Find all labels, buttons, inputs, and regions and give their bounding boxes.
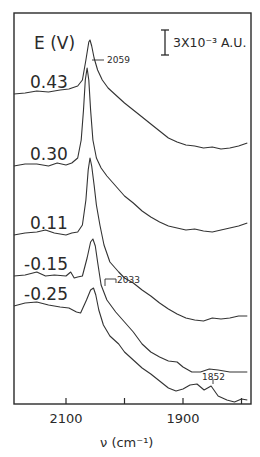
x-axis-tick-labels: 21001900 [49,411,199,426]
spectrum-0.43 [14,40,247,149]
annotation-2033: 2033 [105,275,140,286]
spectrum--0.25 [14,288,247,402]
series-label: 0.30 [30,144,68,164]
scale-bar: 3X10⁻³ A.U. [161,30,246,55]
annotation-1852: 1852 [202,372,225,384]
svg-text:2033: 2033 [117,275,140,285]
x-tick-label: 1900 [166,411,199,426]
series-label: 0.43 [30,72,68,92]
series-label: 0.11 [30,213,68,233]
x-tick-label: 2100 [49,411,82,426]
series-label: -0.25 [24,284,68,304]
x-axis-label: ν (cm⁻¹) [100,435,153,450]
potential-labels: 0.430.300.11-0.15-0.25 [24,72,68,304]
scale-bar-label: 3X10⁻³ A.U. [173,35,246,50]
ir-spectra-chart: 21001900 0.430.300.11-0.15-0.25 E (V) 3X… [0,0,260,457]
annotation-2059: 2059 [92,55,130,65]
svg-text:1852: 1852 [202,372,225,382]
x-axis-ticks [66,398,242,404]
legend-header: E (V) [34,33,75,53]
series-label: -0.15 [24,254,68,274]
svg-text:2059: 2059 [107,55,130,65]
